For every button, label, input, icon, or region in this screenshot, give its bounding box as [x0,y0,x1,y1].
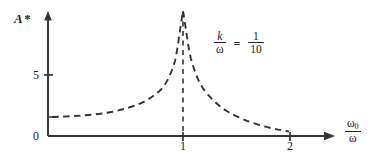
damping-ratio-annotation: k ω = 1 10 [214,30,264,55]
resonance-curve-figure: A* 5 0 1 2 k ω = 1 10 ω0 ω [0,0,387,158]
plot-canvas [0,0,387,158]
x-tick-label-2: 2 [287,140,293,152]
x-axis-label-denominator: ω [345,132,361,144]
y-axis-label: A* [14,12,31,25]
annotation-right-numerator: 1 [248,30,264,43]
x-axis-label: ω0 ω [345,117,361,144]
annotation-left-denominator: ω [214,43,226,55]
y-tick-marks [44,75,58,117]
y-axis-label-asterisk: * [24,11,31,26]
x-axis-label-numerator-symbol: ω [347,117,355,129]
x-tick-label-1: 1 [180,140,186,152]
y-tick-label-5: 5 [33,69,39,81]
annotation-equals-sign: = [233,38,240,50]
resonance-curve [52,11,289,132]
x-axis-label-fraction: ω0 ω [345,117,361,144]
annotation-left-fraction: k ω [214,30,226,55]
annotation-right-fraction: 1 10 [248,30,264,55]
x-axis-label-numerator-subscript: 0 [355,122,359,131]
x-axis-label-numerator: ω0 [345,117,361,132]
annotation-left-numerator: k [214,30,226,43]
annotation-right-denominator: 10 [248,43,264,55]
y-axis-label-text: A [14,11,23,26]
y-tick-label-0: 0 [33,130,39,142]
